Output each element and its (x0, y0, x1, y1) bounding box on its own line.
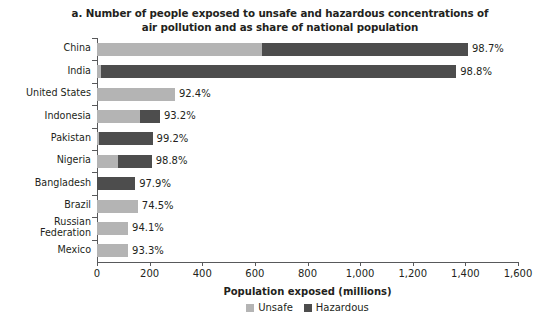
category-label-united-states: United States (0, 88, 91, 99)
value-tick-label: 1,000 (346, 268, 375, 280)
value-tick (413, 262, 414, 266)
value-tick (255, 262, 256, 266)
bar-row[interactable]: 98.8% (97, 65, 518, 78)
chart-title: a. Number of people exposed to unsafe an… (70, 7, 490, 34)
category-axis-labels: ChinaIndiaUnited StatesIndonesiaPakistan… (0, 38, 91, 262)
category-label-nigeria: Nigeria (0, 155, 91, 166)
value-tick (150, 262, 151, 266)
bar-row[interactable]: 94.1% (97, 222, 518, 235)
bar-value-label: 98.8% (460, 65, 492, 78)
bar-row[interactable]: 93.3% (97, 244, 518, 257)
bar-segment-hazardous[interactable] (101, 65, 456, 78)
value-tick (518, 262, 519, 266)
bar-row[interactable]: 98.7% (97, 43, 518, 56)
bar-value-label: 98.8% (156, 154, 188, 167)
bar-row[interactable]: 93.2% (97, 110, 518, 123)
bar-value-label: 74.5% (142, 199, 174, 212)
legend-swatch-unsafe (246, 304, 254, 312)
legend-label-hazardous: Hazardous (316, 302, 369, 313)
category-label-pakistan: Pakistan (0, 133, 91, 144)
bar-segment-unsafe[interactable] (97, 110, 140, 123)
bar-row[interactable]: 74.5% (97, 200, 518, 213)
legend-swatch-hazardous (304, 304, 312, 312)
value-tick-label: 800 (298, 268, 317, 280)
bar-segment-unsafe[interactable] (97, 88, 175, 101)
bar-row[interactable]: 97.9% (97, 177, 518, 190)
value-tick (308, 262, 309, 266)
category-label-russian-federation: Russian Federation (0, 217, 91, 238)
x-axis-title: Population exposed (millions) (97, 286, 518, 297)
bar-row[interactable]: 98.8% (97, 155, 518, 168)
bar-segment-hazardous[interactable] (118, 155, 152, 168)
bar-segment-unsafe[interactable] (97, 200, 138, 213)
bar-value-label: 94.1% (132, 221, 164, 234)
value-tick (202, 262, 203, 266)
legend-label-unsafe: Unsafe (258, 302, 293, 313)
bar-segment-unsafe[interactable] (97, 43, 262, 56)
bar-value-label: 99.2% (157, 132, 189, 145)
bar-segment-unsafe[interactable] (97, 244, 128, 257)
bar-row[interactable]: 99.2% (97, 132, 518, 145)
category-label-indonesia: Indonesia (0, 111, 91, 122)
category-label-bangladesh: Bangladesh (0, 178, 91, 189)
bar-segment-hazardous[interactable] (262, 43, 468, 56)
value-tick (465, 262, 466, 266)
category-label-india: India (0, 66, 91, 77)
bar-value-label: 97.9% (139, 177, 171, 190)
bar-segment-hazardous[interactable] (97, 177, 135, 190)
legend-item-unsafe[interactable]: Unsafe (246, 302, 293, 313)
value-tick-label: 1,400 (451, 268, 480, 280)
bar-segment-hazardous[interactable] (140, 110, 160, 123)
bar-segment-unsafe[interactable] (97, 222, 128, 235)
bar-row[interactable]: 92.4% (97, 88, 518, 101)
category-label-mexico: Mexico (0, 245, 91, 256)
value-tick-label: 0 (94, 268, 100, 280)
bar-value-label: 93.2% (164, 109, 196, 122)
legend-item-hazardous[interactable]: Hazardous (304, 302, 369, 313)
bar-segment-unsafe[interactable] (97, 155, 118, 168)
value-tick-label: 400 (193, 268, 212, 280)
value-tick-label: 200 (140, 268, 159, 280)
value-tick-label: 1,200 (398, 268, 427, 280)
bar-value-label: 93.3% (132, 244, 164, 257)
chart-legend: Unsafe Hazardous (97, 302, 518, 313)
value-tick-label: 1,600 (504, 268, 533, 280)
value-tick (360, 262, 361, 266)
value-tick (97, 262, 98, 266)
category-label-brazil: Brazil (0, 200, 91, 211)
category-label-china: China (0, 43, 91, 54)
bar-value-label: 98.7% (472, 42, 504, 55)
plot-area: 98.7%98.8%92.4%93.2%99.2%98.8%97.9%74.5%… (97, 38, 518, 262)
value-tick-label: 600 (245, 268, 264, 280)
bar-value-label: 92.4% (179, 87, 211, 100)
chart-figure: a. Number of people exposed to unsafe an… (0, 0, 555, 318)
bar-segment-hazardous[interactable] (99, 132, 152, 145)
